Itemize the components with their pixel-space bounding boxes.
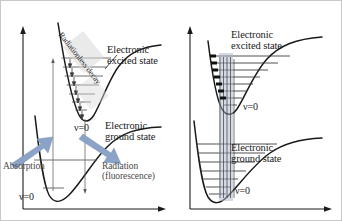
right-ground-state-line2: ground state [231,153,281,164]
left-ground-state-label: Electronic ground state [105,120,155,143]
left-absorption-label: Absorption [3,161,45,171]
right-excited-state-line1: Electronic [231,29,273,40]
right-ground-state-line1: Electronic [231,142,273,153]
left-radiation-line2: (fluorescence) [102,171,155,181]
left-panel-plot [1,1,172,221]
x-axis [190,206,332,212]
right-nu-zero-excited: ν=0 [243,102,258,113]
panel-right-vibrational-manifolds: Electronic excited state Electronic grou… [172,1,342,221]
left-excited-state-label: Electronic excited state [107,44,158,67]
left-excited-state-line2: excited state [107,55,158,66]
left-excited-state-line1: Electronic [107,44,149,55]
emission-transition-band [219,53,233,201]
panel-divider [172,1,173,221]
left-radiation-line1: Radiation [102,161,138,171]
x-axis [23,206,166,212]
right-ground-state-label: Electronic ground state [231,142,281,165]
y-axis [187,26,193,209]
left-nu-zero-excited: ν=0 [74,123,89,134]
left-ground-state-line1: Electronic [105,120,147,131]
left-nu-zero-ground: ν=0 [19,192,34,203]
right-excited-state-label: Electronic excited state [231,29,282,52]
left-radiation-label: Radiation (fluorescence) [102,161,155,182]
left-ground-state-line2: ground state [105,131,155,142]
right-excited-state-line2: excited state [231,40,282,51]
absorption-transition-line [51,58,54,191]
y-axis [20,26,26,209]
excited-state-curve [58,23,161,121]
panel-left-absorption-fluorescence: Electronic excited state Electronic grou… [1,1,172,221]
right-nu-zero-ground: ν=0 [235,186,250,197]
figure-container: Electronic excited state Electronic grou… [0,0,342,221]
